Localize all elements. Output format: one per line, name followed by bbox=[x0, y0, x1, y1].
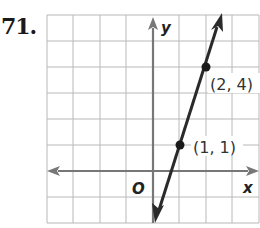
point-label-2-4: (2, 4) bbox=[210, 75, 253, 94]
point-2-4 bbox=[202, 63, 211, 72]
x-axis-label: x bbox=[242, 179, 254, 197]
y-axis-label: y bbox=[161, 19, 172, 37]
origin-label: O bbox=[132, 180, 145, 198]
coordinate-graph: y x O (2, 4) (1, 1) bbox=[0, 0, 260, 228]
graphed-line bbox=[152, 13, 223, 223]
point-1-1 bbox=[176, 141, 185, 150]
y-axis bbox=[148, 17, 158, 223]
point-label-1-1: (1, 1) bbox=[193, 138, 236, 157]
